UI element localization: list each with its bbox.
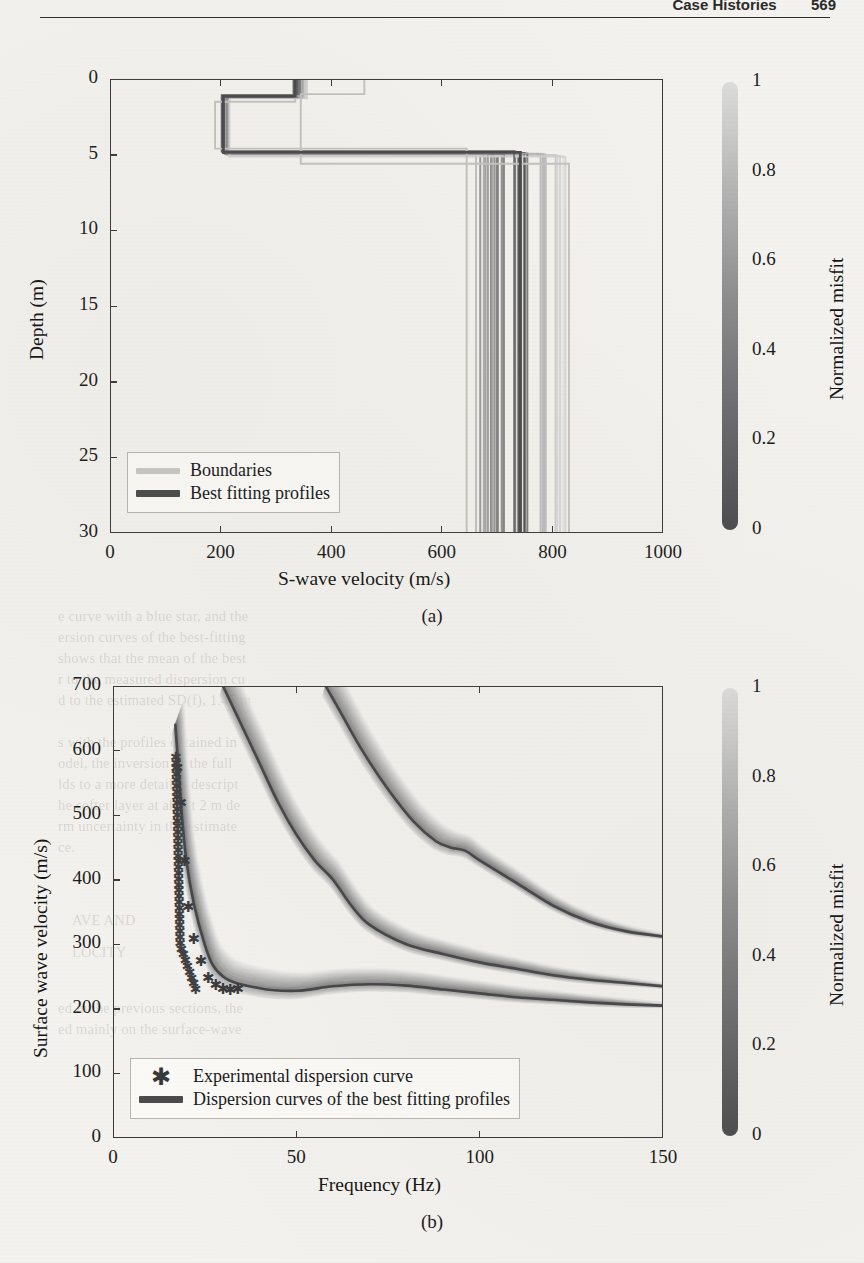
y-axis-title-a: Depth (m) [26,279,48,360]
axis-tick [113,944,120,945]
dispersion-line [175,725,662,1006]
caption-a: (a) [0,605,864,627]
axis-tick-label: 500 [41,802,101,824]
dispersion-line [323,694,662,938]
dispersion-line [328,687,662,936]
dispersion-line [332,687,662,934]
dispersion-line [177,720,662,1005]
axis-tick [296,686,297,693]
colorbar-tick-label: 0 [752,1123,762,1145]
legend-b: ✱ Experimental dispersion curve Dispersi… [130,1058,520,1119]
bleed-text-line: ersion curves of the best-fitting [58,629,246,646]
colorbar-tick-label: 1 [752,675,762,697]
axis-tick-label: 0 [73,1146,153,1168]
axis-tick [552,79,553,86]
legend-a: Boundaries Best fitting profiles [127,452,340,513]
axis-tick-label: 800 [512,541,592,563]
colorbar-tick-label: 0.6 [752,854,776,876]
colorbar-b [722,688,738,1136]
dispersion-line [328,687,662,936]
experimental-star-marker: ✱ [231,980,244,998]
dispersion-line [326,687,662,936]
colorbar-tick-label: 0.4 [752,338,776,360]
axis-tick-label: 1000 [623,541,703,563]
axis-tick [441,79,442,86]
colorbar-title-a: Normalized misfit [826,258,848,400]
running-head-title: Case Histories [672,0,776,13]
x-axis-title-a: S-wave velocity (m/s) [278,568,450,590]
axis-tick-label: 5 [38,142,98,164]
legend-swatch-boundaries-icon [136,468,180,474]
dispersion-line [176,723,662,1006]
dispersion-line [333,687,662,934]
axis-tick-label: 150 [623,1146,703,1168]
dispersion-line [329,687,662,935]
legend-swatch-best-fit-icon [136,490,180,497]
dispersion-line [331,687,662,935]
dispersion-line [178,718,662,1005]
axis-tick [110,306,117,307]
axis-tick-label: 20 [38,369,98,391]
dispersion-line [330,687,662,935]
dispersion-line [326,687,662,936]
axis-tick [331,79,332,86]
dispersion-line [177,721,662,1005]
dispersion-line [325,688,662,937]
axis-tick [479,1131,480,1138]
axis-tick [441,526,442,533]
axis-tick [220,526,221,533]
colorbar-title-b: Normalized misfit [826,864,848,1006]
dispersion-line [175,725,662,1006]
dispersion-line [326,687,662,937]
dispersion-line [176,724,662,1006]
axis-tick [552,526,553,533]
axis-tick [113,1008,120,1009]
dispersion-line [177,719,662,1005]
dispersion-line [325,689,662,937]
dispersion-line [332,687,662,934]
axis-tick-label: 400 [291,541,371,563]
axis-tick [113,815,120,816]
axis-tick [110,154,117,155]
legend-swatch-dispersion-icon [139,1096,183,1103]
colorbar-tick-label: 1 [752,69,762,91]
colorbar-tick-label: 0.8 [752,159,776,181]
dispersion-line [329,687,662,935]
colorbar-tick-label: 0.6 [752,248,776,270]
dispersion-line [333,687,662,934]
dispersion-line [327,687,662,936]
legend-label-best-fitting-profiles: Best fitting profiles [190,483,330,504]
dispersion-line [324,692,662,938]
running-head: Case Histories 569 [0,0,864,13]
dispersion-line [324,690,662,937]
axis-tick-label: 100 [41,1060,101,1082]
axis-tick-label: 0 [70,541,150,563]
page-number: 569 [811,0,836,13]
legend-item-experimental-curve: ✱ Experimental dispersion curve [139,1066,510,1087]
experimental-star-marker: ✱ [187,930,200,948]
legend-label-best-fit-dispersion: Dispersion curves of the best fitting pr… [193,1089,510,1110]
dispersion-line [334,687,662,934]
axis-tick-label: 30 [38,520,98,542]
axis-tick [331,526,332,533]
dispersion-line [330,687,662,935]
experimental-star-marker: ✱ [170,749,182,765]
colorbar-tick-label: 0 [752,517,762,539]
axis-tick-label: 10 [38,217,98,239]
dispersion-line [325,687,662,937]
dispersion-line [327,687,662,936]
axis-tick-label: 0 [38,66,98,88]
legend-item-best-fitting-profiles: Best fitting profiles [136,483,330,504]
header-rule [40,17,830,18]
dispersion-line [326,687,662,937]
axis-tick-label: 0 [41,1125,101,1147]
figure-panel-a: 051015202530 Depth (m) 02004006008001000… [0,60,864,580]
dispersion-line [324,693,662,938]
axis-tick-label: 50 [256,1146,336,1168]
dispersion-line [330,687,662,935]
axis-tick-label: 600 [402,541,482,563]
axis-tick [110,230,117,231]
colorbar-tick-label: 0.4 [752,944,776,966]
colorbar-tick-label: 0.2 [752,427,776,449]
bleed-text-line: shows that the mean of the best [58,650,246,667]
